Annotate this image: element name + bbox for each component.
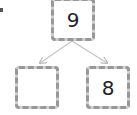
part-box-left[interactable] [15,66,59,109]
part-box-right: 8 [86,66,130,109]
whole-box: 9 [51,0,95,41]
whole-value: 9 [67,8,80,32]
part-right-value: 8 [102,76,115,100]
arrow-right [72,41,107,63]
arrow-left [40,41,72,63]
